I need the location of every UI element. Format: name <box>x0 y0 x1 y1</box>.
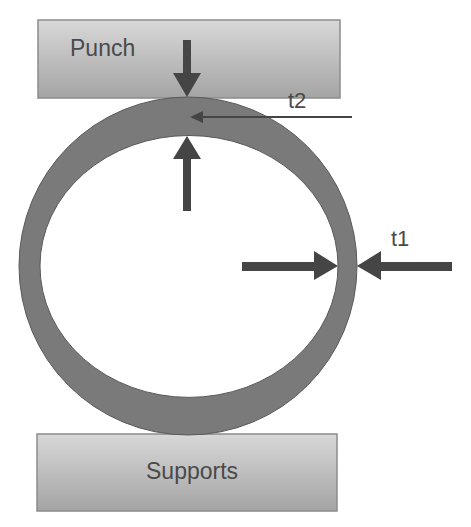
arrow-left-icon <box>357 251 452 280</box>
punch-label: Punch <box>70 35 135 62</box>
supports-label: Supports <box>146 458 238 485</box>
arrow-right-icon <box>242 251 338 280</box>
arrow-up-icon <box>173 136 201 211</box>
t2-label: t2 <box>288 88 306 114</box>
t1-label: t1 <box>391 226 409 252</box>
diagram-canvas <box>0 0 471 527</box>
